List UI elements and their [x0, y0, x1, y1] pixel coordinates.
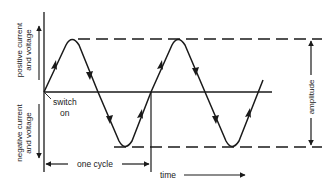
negative-label-line2: and voltage: [24, 112, 33, 154]
switch-label-line1: switch: [53, 97, 77, 107]
positive-label-line1: positive current: [15, 22, 24, 77]
one-cycle-label: one cycle: [77, 159, 113, 169]
switch-label-line2: on: [60, 108, 70, 118]
sine-wave-diagram: one cycle time switch on positive curren…: [0, 0, 334, 188]
switch-pointer: [45, 93, 51, 99]
time-label: time: [160, 170, 176, 180]
negative-label-line1: negative current: [15, 104, 24, 162]
amplitude-label: amplitude: [307, 79, 316, 114]
positive-label-line2: and voltage: [24, 29, 33, 71]
sine-wave: [44, 40, 263, 147]
